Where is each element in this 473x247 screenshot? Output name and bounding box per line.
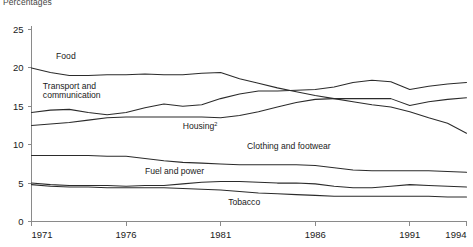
y-tick-label: 15 [13, 101, 24, 112]
series-label: Tobacco [228, 197, 260, 207]
series-line [32, 68, 467, 133]
x-tick-label: 1994 [445, 229, 466, 240]
series-label: Food [56, 51, 76, 61]
y-tick-label: 5 [18, 178, 23, 189]
y-tick-label: 10 [13, 139, 24, 150]
series-lines [32, 68, 467, 197]
y-tick-label: 20 [13, 62, 24, 73]
line-chart: Percentages 0510152025 19711976198119861… [0, 0, 473, 247]
x-tick-label: 1981 [210, 229, 231, 240]
x-tick-label: 1986 [305, 229, 326, 240]
series-label: Housing2 [183, 121, 218, 131]
series-label: Fuel and power [145, 166, 204, 176]
series-line [32, 185, 467, 197]
y-tick-label: 25 [13, 24, 24, 35]
x-tick-label: 1976 [115, 229, 136, 240]
chart-plot-area: 0510152025 197119761981198619911994 Food… [0, 0, 473, 247]
x-axis-ticks: 197119761981198619911994 [32, 222, 467, 240]
series-line [32, 155, 467, 172]
x-tick-label: 1991 [399, 229, 420, 240]
y-axis-ticks: 0510152025 [13, 24, 32, 227]
series-label: communication [43, 90, 101, 100]
series-line [32, 98, 467, 126]
series-label: Clothing and footwear [247, 141, 331, 151]
series-label-superscript: 2 [214, 121, 217, 127]
x-tick-label: 1971 [32, 229, 53, 240]
y-tick-label: 0 [18, 216, 23, 227]
